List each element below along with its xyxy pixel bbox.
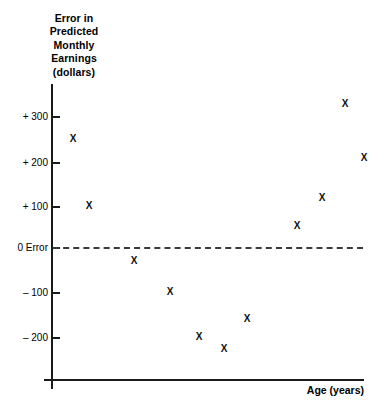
data-point-marker: X xyxy=(84,201,94,211)
data-point-marker: X xyxy=(359,153,369,163)
x-axis-label: Age (years) xyxy=(244,384,364,396)
data-point-marker: X xyxy=(194,332,204,342)
data-point-marker: X xyxy=(340,99,350,109)
scatter-chart: Error in Predicted Monthly Earnings (dol… xyxy=(0,0,376,408)
plot-area: XXXXXXXXXXX xyxy=(0,0,376,408)
data-point-marker: X xyxy=(68,134,78,144)
data-point-marker: X xyxy=(317,193,327,203)
data-point-marker: X xyxy=(219,344,229,354)
data-point-marker: X xyxy=(292,221,302,231)
data-point-marker: X xyxy=(165,287,175,297)
data-point-marker: X xyxy=(242,314,252,324)
data-point-marker: X xyxy=(129,256,139,266)
